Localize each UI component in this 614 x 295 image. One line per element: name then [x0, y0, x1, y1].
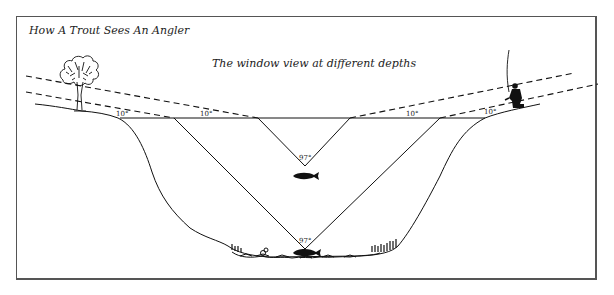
angler-icon: [505, 50, 524, 108]
window-cone-deep: [174, 118, 440, 249]
tree-icon: [60, 56, 98, 111]
trout-icon-shallow: [293, 172, 319, 180]
trout-icon-deep: [293, 249, 321, 257]
diagram-canvas: 10° 10° 10° 10° 97° 97°: [0, 0, 614, 295]
angle-label-left-outer: 10°: [116, 110, 128, 118]
window-angle-label-shallow: 97°: [299, 154, 311, 162]
sight-line-left-lower: [26, 92, 174, 118]
riverbank-outline: [35, 104, 540, 257]
sight-line-right-upper: [350, 73, 574, 118]
sight-line-left-upper: [26, 76, 258, 118]
angle-label-right-inner: 10°: [406, 110, 418, 118]
angle-label-right-outer: 10°: [484, 108, 496, 116]
angle-label-left-inner: 10°: [200, 110, 212, 118]
window-angle-label-deep: 97°: [299, 237, 311, 245]
